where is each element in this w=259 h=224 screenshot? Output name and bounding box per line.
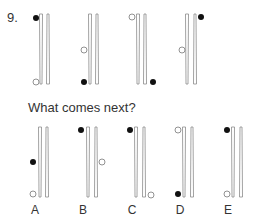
option-label-a[interactable]: A (27, 203, 43, 217)
hollow-dot-icon (224, 191, 230, 197)
bar-shape (135, 127, 138, 197)
bar-shape (194, 14, 197, 84)
option-figure-c[interactable] (127, 127, 154, 198)
filled-dot-icon (30, 159, 36, 165)
option-figure-b[interactable] (78, 127, 105, 197)
filled-dot-icon (150, 79, 156, 85)
option-label-c[interactable]: C (124, 203, 140, 217)
sequence-figure-3 (129, 14, 156, 85)
filled-dot-icon (33, 15, 39, 21)
bar-shape (232, 127, 235, 197)
option-label-b[interactable]: B (75, 203, 91, 217)
hollow-dot-icon (175, 127, 181, 133)
bar-shape (191, 127, 194, 197)
sequence-figure-1 (33, 14, 50, 85)
option-label-e[interactable]: E (220, 203, 236, 217)
sequence-figure-2 (81, 14, 99, 85)
bar-shape (143, 127, 146, 197)
puzzle-canvas (0, 0, 259, 224)
filled-dot-icon (198, 14, 204, 20)
hollow-dot-icon (129, 14, 135, 20)
option-figure-d[interactable] (175, 127, 194, 197)
hollow-dot-icon (33, 79, 39, 85)
hollow-dot-icon (148, 192, 154, 198)
option-figure-e[interactable] (224, 127, 243, 197)
bar-shape (240, 127, 243, 197)
bar-shape (183, 127, 186, 197)
option-label-d[interactable]: D (172, 203, 188, 217)
bar-shape (186, 14, 189, 84)
hollow-dot-icon (30, 191, 36, 197)
bar-shape (46, 127, 49, 197)
sequence-figure-4 (179, 14, 204, 84)
bar-shape (47, 14, 50, 84)
filled-dot-icon (127, 127, 133, 133)
filled-dot-icon (175, 191, 181, 197)
filled-dot-icon (224, 127, 230, 133)
answer-options (30, 127, 243, 198)
hollow-dot-icon (179, 47, 185, 53)
hollow-dot-icon (81, 47, 87, 53)
bar-shape (96, 14, 99, 84)
bar-shape (89, 14, 92, 84)
bar-shape (144, 14, 147, 84)
bar-shape (137, 14, 140, 84)
bar-shape (40, 14, 43, 84)
bar-shape (39, 127, 42, 197)
sequence-figures (33, 14, 204, 85)
filled-dot-icon (81, 79, 87, 85)
option-figure-a[interactable] (30, 127, 49, 197)
bar-shape (87, 127, 90, 197)
hollow-dot-icon (99, 159, 105, 165)
bar-shape (95, 127, 98, 197)
filled-dot-icon (78, 127, 84, 133)
